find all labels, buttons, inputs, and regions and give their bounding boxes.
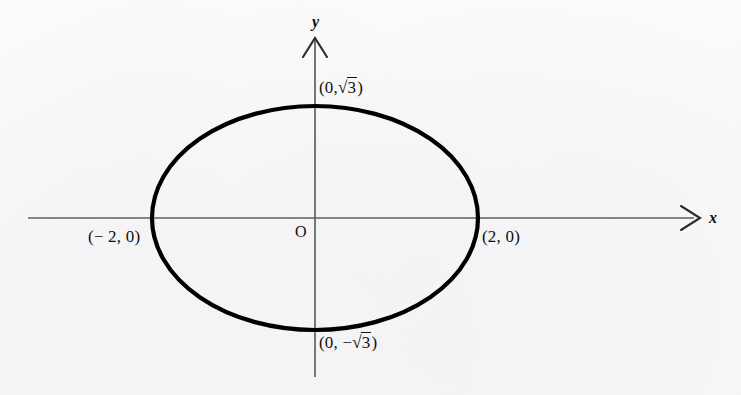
point-label-top-suffix: )	[357, 78, 363, 97]
y-axis-label: y	[312, 14, 319, 30]
radicand-bottom: 3	[361, 332, 372, 352]
point-label-bottom-prefix: (0, −	[319, 333, 352, 352]
point-label-left: (− 2, 0)	[88, 228, 140, 245]
point-label-top-prefix: (0,	[319, 78, 338, 97]
point-label-top: (0,√3)	[319, 79, 363, 96]
x-axis-label: x	[709, 210, 717, 226]
figure-canvas: y x O (0,√3) (0, −√3) (− 2, 0) (2, 0)	[0, 0, 741, 395]
point-label-bottom-suffix: )	[371, 333, 377, 352]
point-label-right: (2, 0)	[482, 228, 520, 245]
radicand-top: 3	[347, 77, 358, 97]
origin-label: O	[295, 224, 307, 240]
point-label-bottom: (0, −√3)	[319, 334, 377, 351]
